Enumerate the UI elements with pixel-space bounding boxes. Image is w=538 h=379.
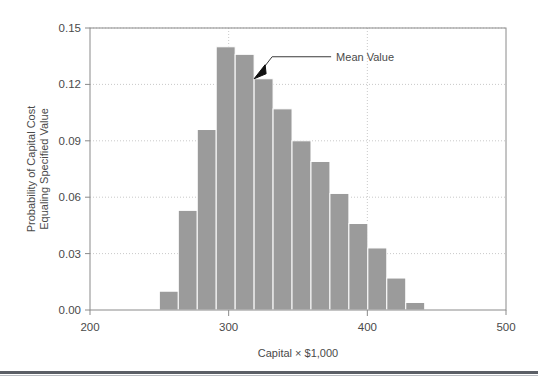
x-axis: 200300400500 bbox=[80, 310, 515, 333]
x-tick-label: 200 bbox=[80, 321, 99, 333]
histogram-bar bbox=[406, 302, 425, 310]
y-tick-label: 0.15 bbox=[59, 22, 81, 34]
histogram-bar bbox=[273, 109, 292, 310]
x-axis-title: Capital × $1,000 bbox=[258, 347, 338, 359]
histogram-bar bbox=[330, 193, 349, 310]
x-tick-label: 500 bbox=[496, 321, 515, 333]
x-tick-label: 400 bbox=[358, 321, 377, 333]
histogram-bar bbox=[159, 291, 178, 310]
x-tick-label: 300 bbox=[219, 321, 238, 333]
footer-rule-thick bbox=[0, 371, 538, 374]
histogram-bar bbox=[197, 130, 216, 310]
y-tick-label: 0.00 bbox=[59, 304, 81, 316]
histogram-bar bbox=[216, 47, 235, 310]
y-axis-title: Probability of Capital Cost Equaling Spe… bbox=[25, 106, 50, 233]
histogram-bar bbox=[387, 278, 406, 310]
histogram-bar bbox=[235, 54, 254, 310]
y-axis-title-line2: Equaling Specified Value bbox=[38, 108, 50, 230]
y-tick-label: 0.09 bbox=[59, 135, 81, 147]
y-axis-title-line1: Probability of Capital Cost bbox=[25, 106, 37, 233]
histogram-bar bbox=[292, 141, 311, 310]
footer-rule-thin bbox=[0, 375, 538, 376]
mean-value-label: Mean Value bbox=[336, 51, 394, 63]
histogram-bar bbox=[311, 161, 330, 310]
capital-cost-probability-histogram: 0.000.030.060.090.120.15 200300400500 Me… bbox=[0, 0, 538, 379]
y-axis: 0.000.030.060.090.120.15 bbox=[59, 22, 90, 316]
y-tick-label: 0.06 bbox=[59, 191, 81, 203]
histogram-bar bbox=[349, 224, 368, 310]
y-tick-label: 0.03 bbox=[59, 248, 81, 260]
histogram-bar bbox=[178, 210, 197, 310]
histogram-figure: 0.000.030.060.090.120.15 200300400500 Me… bbox=[0, 0, 538, 379]
histogram-bar bbox=[368, 248, 387, 310]
histogram-bar bbox=[254, 79, 273, 310]
y-tick-label: 0.12 bbox=[59, 78, 81, 90]
